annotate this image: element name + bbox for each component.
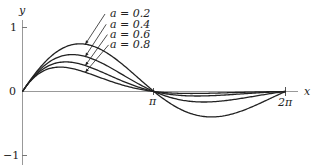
x-tick-label-pi: π xyxy=(148,95,157,108)
legend-label-a08: a = 0.8 xyxy=(110,38,150,51)
x-axis-label: x xyxy=(304,85,311,98)
legend-arrows xyxy=(85,14,108,72)
y-tick-label-1: 1 xyxy=(10,21,17,34)
arrowhead-icon xyxy=(85,62,88,66)
y-tick-label-0: 0 xyxy=(9,85,16,98)
arrowhead-icon xyxy=(85,53,88,57)
y-tick-label-neg1: −1 xyxy=(3,149,19,162)
arrowhead-icon xyxy=(85,40,88,44)
legend-arrow xyxy=(85,14,105,44)
x-tick-label-2pi: 2π xyxy=(277,96,293,109)
chart: y x 1 0 −1 π 2π a = 0.2 a = 0.4 a = 0.6 … xyxy=(0,0,314,165)
y-axis-label: y xyxy=(18,4,26,17)
plot-area: y x 1 0 −1 π 2π a = 0.2 a = 0.4 a = 0.6 … xyxy=(0,0,314,165)
